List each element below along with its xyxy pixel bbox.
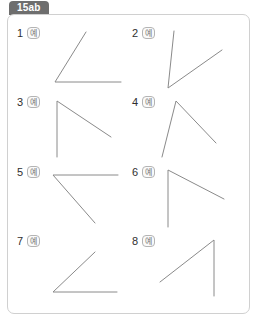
angle-figure: [13, 234, 128, 303]
angle-figure: [13, 165, 128, 234]
tab-15ab[interactable]: 15ab: [9, 1, 49, 15]
problem-item[interactable]: 2 예: [128, 26, 243, 95]
angle-drawing-7: [13, 234, 128, 303]
problem-item[interactable]: 6 예: [128, 165, 243, 234]
angle-drawing-4: [128, 95, 243, 164]
angle-drawing-6: [128, 165, 243, 234]
worksheet-panel: 1 예 2 예 3 예: [7, 14, 250, 314]
problem-item[interactable]: 7 예: [13, 234, 128, 303]
problem-item[interactable]: 3 예: [13, 95, 128, 164]
problem-item[interactable]: 1 예: [13, 26, 128, 95]
angle-figure: [13, 95, 128, 164]
problem-item[interactable]: 8 예: [128, 234, 243, 303]
angle-figure: [128, 26, 243, 95]
angle-drawing-5: [13, 165, 128, 234]
angle-drawing-1: [13, 26, 128, 95]
angle-drawing-8: [128, 234, 243, 303]
angle-drawing-2: [128, 26, 243, 95]
problem-grid: 1 예 2 예 3 예: [8, 15, 251, 315]
angle-figure: [128, 165, 243, 234]
angle-figure: [128, 234, 243, 303]
angle-figure: [13, 26, 128, 95]
problem-item[interactable]: 4 예: [128, 95, 243, 164]
angle-figure: [128, 95, 243, 164]
angle-drawing-3: [13, 95, 128, 164]
problem-item[interactable]: 5 예: [13, 165, 128, 234]
